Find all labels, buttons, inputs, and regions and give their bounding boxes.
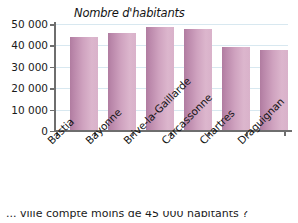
x-tick-6: [284, 131, 286, 136]
chart-title: Nombre d'habitants: [74, 6, 185, 20]
caption-text: ... ville compte moins de 45 000 habitan…: [6, 211, 248, 220]
y-tick-10000: [50, 110, 56, 112]
bar-chart-figure: Nombre d'habitants 50 000 40 000 30 000 …: [0, 0, 298, 223]
bar-bastia: [70, 37, 98, 131]
y-axis-label-20000: 20 000: [0, 82, 48, 94]
y-axis-label-0: 0: [0, 125, 48, 137]
y-tick-40000: [50, 45, 56, 47]
y-tick-20000: [50, 88, 56, 90]
gridline-50000: [56, 24, 288, 25]
y-axis-label-10000: 10 000: [0, 104, 48, 116]
caption-fragment: ... ville compte moins de 45 000 habitan…: [0, 211, 298, 223]
y-axis-label-50000: 50 000: [0, 18, 48, 30]
y-axis-line: [54, 22, 56, 132]
y-axis-label-40000: 40 000: [0, 39, 48, 51]
y-tick-50000: [50, 24, 56, 26]
y-tick-30000: [50, 67, 56, 69]
y-axis-label-30000: 30 000: [0, 61, 48, 73]
plot-area: [56, 24, 288, 131]
